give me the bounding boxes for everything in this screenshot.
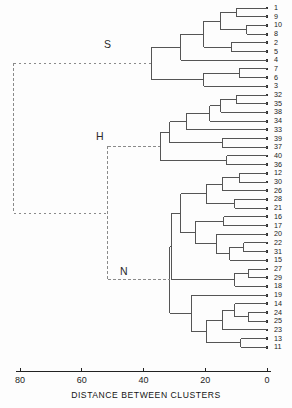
cluster-label-h: H bbox=[96, 130, 104, 142]
leaf-label: 38 bbox=[274, 108, 282, 115]
leaf-label: 13 bbox=[274, 335, 282, 342]
leaf-label: 35 bbox=[274, 100, 282, 107]
leaf-label: 22 bbox=[274, 239, 282, 246]
leaf-label: 15 bbox=[274, 256, 282, 263]
x-tick-label: 40 bbox=[132, 375, 156, 385]
leaf-label: 23 bbox=[274, 326, 282, 333]
axis-title: DISTANCE BETWEEN CLUSTERS bbox=[0, 390, 292, 400]
leaf-label: 36 bbox=[274, 161, 282, 168]
cluster-label-s: S bbox=[104, 38, 111, 50]
leaf-label: 10 bbox=[274, 21, 282, 28]
leaf-label: 25 bbox=[274, 317, 282, 324]
leaf-label: 18 bbox=[274, 282, 282, 289]
x-tick-label: 60 bbox=[70, 375, 94, 385]
leaf-label: 19 bbox=[274, 291, 282, 298]
leaf-label: 17 bbox=[274, 222, 282, 229]
leaf-label: 40 bbox=[274, 152, 282, 159]
leaf-label: 34 bbox=[274, 117, 282, 124]
leaf-label: 1 bbox=[274, 4, 278, 11]
leaf-label: 33 bbox=[274, 126, 282, 133]
leaf-label: 7 bbox=[274, 65, 278, 72]
leaf-label: 12 bbox=[274, 169, 282, 176]
leaf-label: 32 bbox=[274, 91, 282, 98]
leaf-label: 16 bbox=[274, 213, 282, 220]
leaf-label: 27 bbox=[274, 265, 282, 272]
leaf-label: 5 bbox=[274, 48, 278, 55]
cluster-label-n: N bbox=[120, 265, 128, 277]
leaf-label: 3 bbox=[274, 82, 278, 89]
leaf-label: 4 bbox=[274, 56, 278, 63]
leaf-label: 9 bbox=[274, 13, 278, 20]
leaf-label: 20 bbox=[274, 230, 282, 237]
leaf-label: 29 bbox=[274, 274, 282, 281]
leaf-label: 14 bbox=[274, 300, 282, 307]
leaf-label: 31 bbox=[274, 248, 282, 255]
leaf-label: 2 bbox=[274, 39, 278, 46]
x-tick-label: 20 bbox=[193, 375, 217, 385]
leaf-label: 39 bbox=[274, 135, 282, 142]
x-tick-label: 80 bbox=[8, 375, 32, 385]
leaf-label: 37 bbox=[274, 143, 282, 150]
leaf-label: 11 bbox=[274, 343, 282, 350]
x-tick-label: 0 bbox=[255, 375, 279, 385]
dendrogram-plot bbox=[0, 0, 292, 408]
leaf-label: 26 bbox=[274, 187, 282, 194]
leaf-label: 21 bbox=[274, 204, 282, 211]
leaf-label: 24 bbox=[274, 309, 282, 316]
leaf-label: 30 bbox=[274, 178, 282, 185]
leaf-label: 6 bbox=[274, 74, 278, 81]
leaf-label: 28 bbox=[274, 195, 282, 202]
dendrogram-figure: 1910825476332353834333937403612302628211… bbox=[0, 0, 292, 408]
leaf-label: 8 bbox=[274, 30, 278, 37]
